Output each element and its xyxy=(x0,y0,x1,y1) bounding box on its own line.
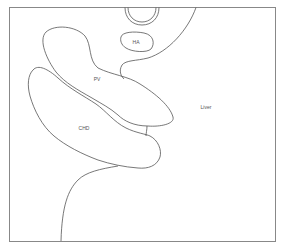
diagram-canvas xyxy=(0,0,282,251)
lower-boundary xyxy=(61,166,118,241)
label-liver: Liver xyxy=(201,105,212,110)
common-hepatic-duct-outline xyxy=(28,67,160,168)
diagram-frame xyxy=(10,8,276,242)
top-vessel-circle xyxy=(125,8,159,26)
label-chd: CHD xyxy=(79,126,90,131)
diagram-figure: HA PV Liver CHD xyxy=(0,0,282,251)
portal-vein-outline xyxy=(43,27,173,126)
label-pv: PV xyxy=(94,77,101,82)
label-ha: HA xyxy=(133,40,140,45)
